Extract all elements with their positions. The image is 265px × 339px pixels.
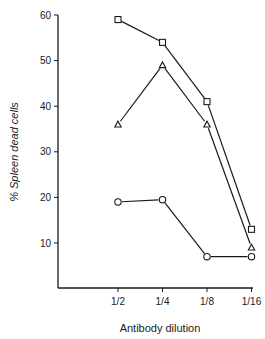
square-marker-icon <box>204 99 210 105</box>
x-axis-title: Antibody dilution <box>120 322 201 334</box>
series-square <box>115 17 255 233</box>
series-group <box>115 17 255 260</box>
y-tick-label: 60 <box>40 10 52 21</box>
square-marker-icon <box>115 17 121 23</box>
series-line <box>208 128 250 244</box>
y-tick-label: 40 <box>40 101 52 112</box>
series-line <box>165 46 205 99</box>
series-line <box>120 68 160 121</box>
y-axis-title: % Spleen dead cells <box>8 102 20 202</box>
series-circle <box>115 196 255 259</box>
triangle-marker-icon <box>204 121 210 127</box>
y-tick-label: 30 <box>40 146 52 157</box>
x-tick-label: 1/2 <box>111 296 125 307</box>
triangle-marker-icon <box>159 62 165 68</box>
circle-marker-icon <box>204 253 210 259</box>
series-triangle <box>115 62 255 250</box>
circle-marker-icon <box>248 253 254 259</box>
square-marker-icon <box>160 39 166 45</box>
series-line <box>122 21 159 40</box>
series-line <box>165 68 205 121</box>
y-tick-label: 20 <box>40 192 52 203</box>
square-marker-icon <box>249 226 255 232</box>
x-tick-label: 1/4 <box>156 296 170 307</box>
series-line <box>208 105 250 225</box>
series-line <box>122 200 159 202</box>
triangle-marker-icon <box>115 121 121 127</box>
y-tick-label: 50 <box>40 55 52 66</box>
line-chart: 1020304050601/21/41/81/16 % Spleen dead … <box>0 0 265 339</box>
series-line <box>165 203 205 254</box>
circle-marker-icon <box>115 199 121 205</box>
x-tick-label: 1/16 <box>242 296 262 307</box>
triangle-marker-icon <box>248 244 254 250</box>
circle-marker-icon <box>159 196 165 202</box>
x-tick-label: 1/8 <box>200 296 214 307</box>
y-tick-label: 10 <box>40 238 52 249</box>
axes: 1020304050601/21/41/81/16 <box>40 10 262 308</box>
